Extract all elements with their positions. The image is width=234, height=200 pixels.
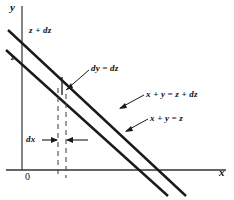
dx-arrow-right-head [66,137,73,143]
intercept-upper-label: z + dz [29,26,51,35]
origin-label: 0 [25,172,30,182]
intercept-lower-label: z [11,53,15,62]
upper-equation-arrowhead [119,103,127,109]
dy-equals-dz-label: dy = dz [91,64,119,73]
y-axis-label: y [10,2,15,13]
upper-equation-label: x + y = z + dz [146,90,198,99]
dx-arrow-left-head [51,137,58,143]
x-axis-label: x [219,167,225,178]
lower-equation-arrowhead [125,126,133,132]
lower-equation-label: x + y = z [150,114,183,123]
dx-label: dx [26,135,35,144]
figure-canvas: y x 0 z + dz z dy = dz x + y = z + dz x … [0,0,234,200]
